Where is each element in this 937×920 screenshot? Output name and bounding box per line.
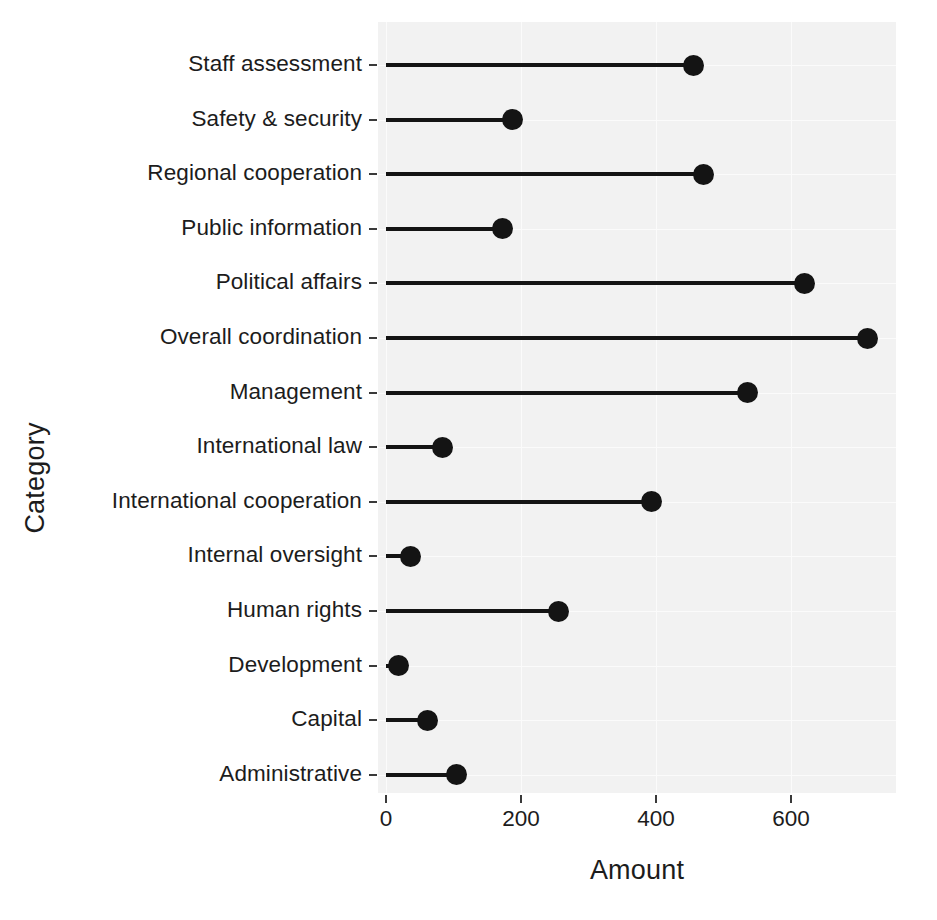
y-axis-tick-mark <box>369 555 377 557</box>
x-axis-tick-label: 200 <box>502 806 540 832</box>
x-axis-title: Amount <box>378 855 896 886</box>
lollipop-stem <box>386 227 503 231</box>
y-axis-tick-mark <box>369 665 377 667</box>
lollipop-point <box>492 218 513 239</box>
y-axis-tick-mark <box>369 392 377 394</box>
y-axis-tick-mark <box>369 228 377 230</box>
lollipop-point <box>417 710 438 731</box>
y-axis-tick-mark <box>369 774 377 776</box>
x-axis-tick-mark <box>385 795 387 803</box>
lollipop-point <box>641 491 662 512</box>
lollipop-stem <box>386 63 693 67</box>
gridline-horizontal <box>378 556 896 557</box>
lollipop-stem <box>386 336 868 340</box>
gridline-vertical <box>656 22 657 793</box>
x-axis-tick-label: 0 <box>380 806 393 832</box>
y-axis-tick-mark <box>369 337 377 339</box>
y-axis-tick-mark <box>369 610 377 612</box>
gridline-vertical <box>521 22 522 793</box>
x-axis-tick-label: 600 <box>772 806 810 832</box>
gridline-vertical <box>386 22 387 793</box>
y-axis-tick-mark <box>369 719 377 721</box>
lollipop-stem <box>386 172 704 176</box>
plot-panel <box>378 22 896 793</box>
y-axis-tick-mark <box>369 446 377 448</box>
lollipop-stem <box>386 281 805 285</box>
lollipop-stem <box>386 500 652 504</box>
lollipop-point <box>857 328 878 349</box>
x-axis-tick-mark <box>790 795 792 803</box>
chart-figure: Category Amount Staff assessmentSafety &… <box>0 0 937 920</box>
lollipop-point <box>388 655 409 676</box>
gridline-vertical <box>791 22 792 793</box>
gridline-horizontal <box>378 666 896 667</box>
y-axis-tick-mark <box>369 282 377 284</box>
x-axis-tick-label: 400 <box>637 806 675 832</box>
gridline-horizontal <box>378 447 896 448</box>
y-axis-tick-mark <box>369 501 377 503</box>
lollipop-stem <box>386 609 558 613</box>
lollipop-point <box>737 382 758 403</box>
lollipop-point <box>548 601 569 622</box>
y-axis-title: Category <box>0 0 70 920</box>
y-axis-tick-mark <box>369 64 377 66</box>
lollipop-point <box>693 164 714 185</box>
x-axis-tick-mark <box>655 795 657 803</box>
lollipop-stem <box>386 391 748 395</box>
lollipop-point <box>400 546 421 567</box>
y-axis-title-text: Category <box>20 422 51 533</box>
x-axis-tick-mark <box>520 795 522 803</box>
lollipop-point <box>432 437 453 458</box>
y-axis-tick-mark <box>369 119 377 121</box>
lollipop-stem <box>386 118 513 122</box>
lollipop-point <box>794 273 815 294</box>
y-axis-tick-mark <box>369 173 377 175</box>
lollipop-point <box>683 55 704 76</box>
lollipop-point <box>446 764 467 785</box>
gridline-horizontal <box>378 720 896 721</box>
